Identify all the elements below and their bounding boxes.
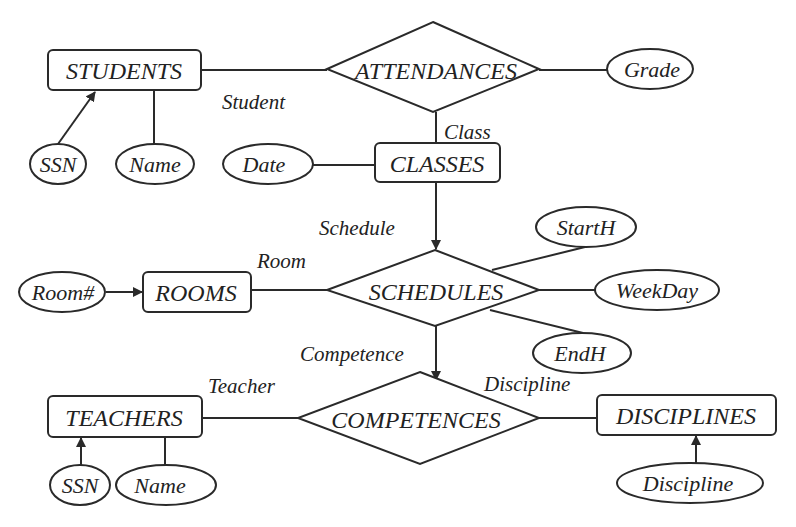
attribute-classes-date[interactable]: Date [223,144,313,184]
relationship-competences-label: COMPETENCES [331,407,500,433]
attribute-attendances-grade[interactable]: Grade [607,49,693,89]
attribute-schedules-starth[interactable]: StartH [536,207,636,247]
entity-rooms[interactable]: ROOMS [143,272,251,312]
attribute-schedules-weekday-label: WeekDay [616,278,698,303]
entity-students-label: STUDENTS [66,58,182,84]
attribute-classes-date-label: Date [242,152,286,177]
attribute-students-ssn[interactable]: SSN [30,144,86,184]
attribute-disciplines-discipline[interactable]: Discipline [617,463,763,503]
attribute-students-name[interactable]: Name [116,144,194,184]
role-label-class: Class [444,120,491,144]
entity-classes[interactable]: CLASSES [375,143,500,182]
attribute-rooms-roomno-label: Room# [31,280,95,305]
role-label-teacher: Teacher [208,374,276,398]
attribute-teachers-ssn-label: SSN [62,473,100,498]
attribute-students-ssn-label: SSN [40,152,78,177]
role-label-competence: Competence [300,342,404,366]
entity-disciplines-label: DISCIPLINES [615,403,756,429]
entity-teachers[interactable]: TEACHERS [48,396,202,437]
relationship-attendances[interactable]: ATTENDANCES [327,22,539,112]
entity-students[interactable]: STUDENTS [48,50,201,90]
relationship-schedules-label: SCHEDULES [369,279,504,305]
edge-ssn-students [58,92,95,144]
entity-teachers-label: TEACHERS [65,405,182,431]
relationship-attendances-label: ATTENDANCES [353,58,517,84]
entity-classes-label: CLASSES [390,151,485,177]
role-label-student: Student [222,90,286,114]
role-label-schedule: Schedule [319,216,395,240]
attribute-attendances-grade-label: Grade [624,57,680,82]
attribute-teachers-name[interactable]: Name [116,465,216,505]
attribute-schedules-weekday[interactable]: WeekDay [595,270,719,310]
attribute-teachers-name-label: Name [133,473,186,498]
er-diagram: STUDENTS CLASSES ROOMS TEACHERS DISCIPLI… [0,0,796,527]
attribute-schedules-endh-label: EndH [553,341,606,366]
attribute-rooms-roomno[interactable]: Room# [19,272,105,312]
edge-schedules-starth [492,247,585,270]
entity-rooms-label: ROOMS [154,280,236,306]
role-label-room: Room [256,249,306,273]
entity-disciplines[interactable]: DISCIPLINES [597,395,776,435]
attribute-teachers-ssn[interactable]: SSN [50,465,110,505]
attribute-disciplines-discipline-label: Discipline [642,471,734,496]
attribute-schedules-endh[interactable]: EndH [533,333,631,373]
role-label-discipline: Discipline [483,372,570,396]
edge-schedules-endh [490,310,583,333]
attribute-schedules-starth-label: StartH [557,215,617,240]
attribute-students-name-label: Name [128,152,181,177]
